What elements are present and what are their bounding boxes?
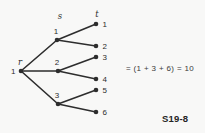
- tree-node-s1-label: 1: [54, 27, 59, 36]
- tree-node-s1-dot: [55, 38, 60, 43]
- equation-text: = (1 + 3 + 6) = 10: [126, 64, 194, 73]
- tree-edge-s3-t5: [58, 90, 96, 104]
- tree-node-t1-dot: [94, 22, 99, 27]
- tree-node-t1-label: 1: [103, 20, 108, 29]
- tree-node-t2-label: 2: [103, 42, 108, 51]
- tree-edge-s2-t3: [58, 57, 96, 71]
- tree-node-s2-label: 2: [55, 58, 60, 67]
- tree-node-t3-label: 3: [103, 53, 108, 62]
- tree-node-t5-dot: [94, 88, 99, 93]
- tree-node-root-label: 1: [11, 67, 16, 76]
- tree-edge-root-s1: [21, 40, 57, 71]
- tree-node-s2-dot: [56, 69, 61, 74]
- tree-node-t6-label: 6: [103, 108, 108, 117]
- level-label-t: t: [95, 9, 99, 19]
- tree-node-t4-label: 4: [103, 75, 108, 84]
- level-label-s: s: [58, 11, 63, 21]
- tree-node-t6-dot: [94, 110, 99, 115]
- tree-node-t4-dot: [94, 77, 99, 82]
- tree-node-s3-dot: [56, 102, 61, 107]
- figure-number-label: S19-8: [162, 113, 188, 124]
- tree-edge-s3-t6: [58, 104, 96, 112]
- tree-node-t2-dot: [94, 44, 99, 49]
- tree-node-t3-dot: [94, 55, 99, 60]
- tree-node-s3-label: 3: [55, 91, 60, 100]
- tree-node-root-dot: [19, 69, 24, 74]
- level-label-r: r: [18, 57, 23, 67]
- tree-edge-s1-t2: [57, 40, 96, 46]
- tree-edge-root-s3: [21, 71, 58, 104]
- tree-edge-s2-t4: [58, 71, 96, 79]
- tree-node-t5-label: 5: [103, 86, 108, 95]
- figure-canvas: 1123123456rst = (1 + 3 + 6) = 10 S19-8: [0, 0, 205, 133]
- tree-edge-s1-t1: [57, 24, 96, 40]
